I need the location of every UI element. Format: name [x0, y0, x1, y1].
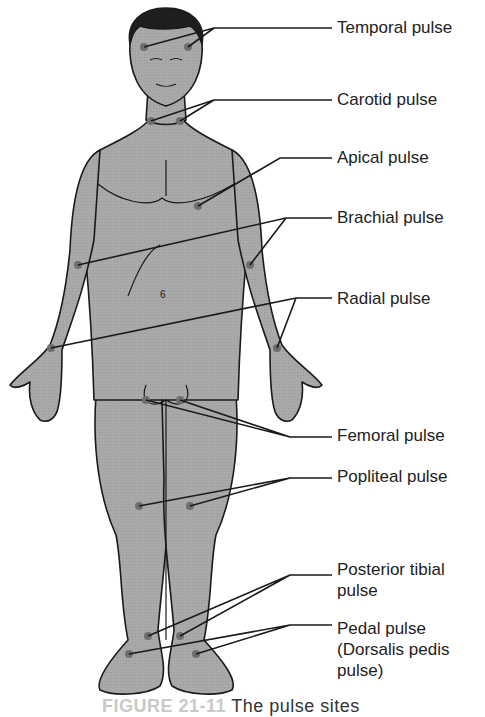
label-brachial-pulse: Brachial pulse	[337, 208, 444, 228]
label-pedal-pulse: Pedal pulse	[337, 619, 426, 639]
label-temporal-pulse: Temporal pulse	[337, 18, 452, 38]
label-femoral-pulse: Femoral pulse	[337, 426, 445, 446]
label-pedal-pulse-end: pulse)	[337, 661, 383, 681]
caption-text: The pulse sites	[231, 696, 360, 716]
right-arm	[232, 150, 322, 421]
right-leg	[162, 395, 237, 694]
left-arm	[10, 150, 100, 421]
label-apical-pulse: Apical pulse	[337, 148, 429, 168]
svg-text:6: 6	[160, 289, 166, 300]
label-popliteal-pulse: Popliteal pulse	[337, 467, 448, 487]
label-posterior-tibial-pulse-cont: pulse	[337, 581, 378, 601]
figure-caption: FIGURE 21-11 The pulse sites	[102, 696, 360, 717]
label-pedal-pulse-cont: (Dorsalis pedis	[337, 640, 449, 660]
caption-number: FIGURE 21-11	[102, 696, 226, 716]
label-carotid-pulse: Carotid pulse	[337, 90, 437, 110]
label-posterior-tibial-pulse: Posterior tibial	[337, 560, 445, 580]
label-radial-pulse: Radial pulse	[337, 289, 431, 309]
